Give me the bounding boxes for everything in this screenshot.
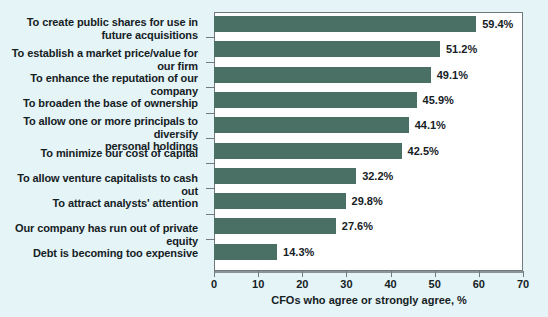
x-axis-tick-label: 10 — [238, 278, 278, 290]
bar-chart: To create public shares for use in futur… — [0, 0, 548, 317]
bar — [214, 143, 402, 159]
bar-value-label: 32.2% — [362, 168, 393, 184]
bar — [214, 244, 277, 260]
x-axis-tick — [479, 271, 480, 277]
x-axis-tick-label: 70 — [503, 278, 543, 290]
bar — [214, 168, 356, 184]
y-axis-tick — [206, 239, 214, 240]
category-label: To create public shares for use in futur… — [0, 16, 198, 41]
x-axis-tick — [302, 271, 303, 277]
bar — [214, 117, 409, 133]
x-axis-tick — [435, 271, 436, 277]
category-label: To allow venture capitalists to cash out — [0, 172, 198, 197]
bar-value-label: 42.5% — [408, 143, 439, 159]
y-axis-tick — [206, 163, 214, 164]
bar-value-label: 51.2% — [446, 41, 477, 57]
bar-value-label: 14.3% — [283, 244, 314, 260]
bar — [214, 41, 440, 57]
y-axis-tick — [206, 113, 214, 114]
category-label: To minimize our cost of capital — [0, 147, 198, 160]
x-axis-tick — [391, 271, 392, 277]
bar — [214, 193, 346, 209]
x-axis-tick-label: 50 — [415, 278, 455, 290]
bar — [214, 16, 476, 32]
y-axis-tick — [206, 138, 214, 139]
category-label: Debt is becoming too expensive — [0, 247, 198, 260]
category-label: Our company has run out of private equit… — [0, 222, 198, 247]
bar-value-label: 45.9% — [423, 92, 454, 108]
x-axis-tick — [214, 271, 215, 277]
bar-value-label: 59.4% — [482, 16, 513, 32]
category-labels: To create public shares for use in futur… — [0, 0, 206, 317]
x-axis-tick-label: 20 — [282, 278, 322, 290]
x-axis-tick — [346, 271, 347, 277]
x-axis-line — [214, 271, 524, 273]
x-axis-tick — [258, 271, 259, 277]
bar — [214, 92, 417, 108]
bar-value-label: 29.8% — [352, 193, 383, 209]
x-axis-title: CFOs who agree or strongly agree, % — [214, 294, 524, 306]
x-axis-tick — [523, 271, 524, 277]
bar — [214, 67, 431, 83]
y-axis-tick — [206, 37, 214, 38]
bar — [214, 218, 336, 234]
bar-value-label: 49.1% — [437, 67, 468, 83]
category-label: To establish a market price/value for ou… — [0, 47, 198, 72]
bar-value-label: 27.6% — [342, 218, 373, 234]
category-label: To enhance the reputation of our company — [0, 72, 198, 97]
category-label: To broaden the base of ownership — [0, 97, 198, 110]
y-axis-tick — [206, 62, 214, 63]
y-axis-tick — [206, 188, 214, 189]
category-label: To attract analysts' attention — [0, 197, 198, 210]
x-axis-tick-label: 40 — [371, 278, 411, 290]
x-axis-tick-label: 60 — [459, 278, 499, 290]
y-axis-tick — [206, 214, 214, 215]
y-axis-tick — [206, 87, 214, 88]
x-axis-tick-label: 30 — [326, 278, 366, 290]
x-axis-tick-label: 0 — [194, 278, 234, 290]
bar-value-label: 44.1% — [415, 117, 446, 133]
